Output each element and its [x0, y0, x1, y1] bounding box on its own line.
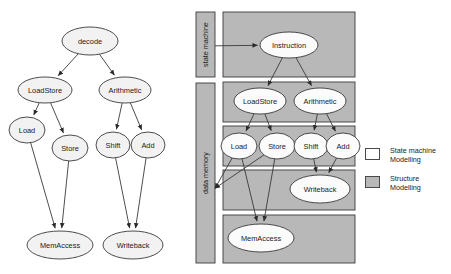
node-loadstore[interactable]: LoadStore: [18, 77, 72, 103]
figure-canvas: decodeLoadStoreArithmeticLoadStoreShiftA…: [0, 0, 451, 274]
node-label-writeback: Writeback: [304, 185, 337, 194]
node-shift[interactable]: Shift: [96, 132, 130, 158]
node-memaccess[interactable]: MemAccess: [228, 224, 294, 252]
left-edge-decode-to-arithmetic: [99, 54, 114, 75]
legend-swatch-structure-modelling: [365, 176, 380, 188]
node-label-store: Store: [61, 144, 79, 153]
node-memaccess[interactable]: MemAccess: [27, 231, 93, 259]
node-label-add: Add: [336, 142, 349, 151]
state-machine-bar-label: state machine: [201, 22, 210, 67]
left-edge-loadstore-to-load: [34, 103, 39, 115]
legend-label-line1: Structure: [390, 174, 421, 183]
node-writeback[interactable]: Writeback: [290, 175, 350, 203]
left-edge-arithmetic-to-add: [130, 103, 141, 130]
node-label-loadstore: LoadStore: [28, 86, 62, 95]
right-diagram: state machinedata memoryInstructionLoadS…: [196, 12, 360, 263]
left-edge-loadstore-to-store: [50, 103, 63, 133]
node-instruction[interactable]: Instruction: [260, 32, 318, 58]
node-label-load: Load: [231, 142, 247, 151]
node-arithmetic[interactable]: Arithmetic: [99, 77, 151, 103]
legend-label-line1: State machine: [390, 146, 436, 155]
node-label-memaccess: MemAccess: [40, 241, 81, 250]
legend-label-state-machine-modelling: State machine Modelling: [390, 146, 436, 164]
node-label-loadstore: LoadStore: [243, 97, 277, 106]
node-label-add: Add: [141, 141, 154, 150]
node-writeback[interactable]: Writeback: [103, 231, 163, 259]
left-edge-store-to-memaccess: [62, 161, 69, 228]
node-label-shift: Shift: [106, 141, 121, 150]
node-label-arithmetic: Arithmetic: [109, 86, 142, 95]
state-machine-bar: state machine: [196, 12, 215, 77]
node-arithmetic[interactable]: Arithmetic: [294, 88, 346, 114]
node-label-arithmetic: Arithmetic: [304, 97, 337, 106]
node-label-load: Load: [19, 126, 35, 135]
left-edge-add-to-writeback: [136, 158, 147, 228]
node-add[interactable]: Add: [326, 133, 360, 159]
legend-swatch-state-machine-modelling: [365, 148, 380, 160]
node-store[interactable]: Store: [259, 133, 295, 159]
node-decode[interactable]: decode: [62, 27, 118, 55]
data-memory-bar-label: data memory: [201, 152, 210, 194]
node-loadstore[interactable]: LoadStore: [234, 88, 286, 114]
node-shift[interactable]: Shift: [294, 133, 328, 159]
left-edge-arithmetic-to-shift: [116, 103, 122, 129]
legend-label-line2: Modelling: [390, 183, 421, 192]
data-memory-bar: data memory: [196, 83, 215, 263]
node-label-decode: decode: [78, 37, 102, 46]
node-label-memaccess: MemAccess: [241, 234, 282, 243]
left-diagram: decodeLoadStoreArithmeticLoadStoreShiftA…: [9, 27, 165, 259]
left-edge-load-to-memaccess: [31, 143, 56, 228]
node-add[interactable]: Add: [131, 132, 165, 158]
node-load[interactable]: Load: [221, 133, 257, 159]
node-label-store: Store: [268, 142, 286, 151]
node-load[interactable]: Load: [9, 117, 45, 143]
node-label-writeback: Writeback: [117, 241, 150, 250]
diagram-svg: decodeLoadStoreArithmeticLoadStoreShiftA…: [0, 0, 451, 274]
node-label-instruction: Instruction: [272, 41, 306, 50]
legend-label-structure-modelling: Structure Modelling: [390, 174, 421, 192]
node-store[interactable]: Store: [52, 135, 88, 161]
left-edge-shift-to-writeback: [116, 158, 130, 228]
legend-label-line2: Modelling: [390, 155, 436, 164]
left-edge-decode-to-loadstore: [58, 54, 78, 76]
node-label-shift: Shift: [304, 142, 319, 151]
